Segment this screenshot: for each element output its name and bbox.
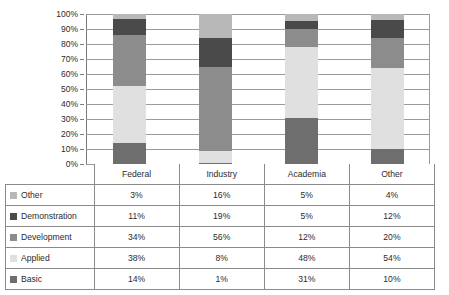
- bar-segment-demonstration: [199, 38, 232, 67]
- table-cell: 14%: [94, 269, 179, 290]
- table-row: Applied38%8%48%54%: [6, 248, 435, 269]
- bar-segment-development: [371, 38, 404, 68]
- y-axis-tick-mark: [80, 89, 84, 90]
- table-cell: 48%: [264, 248, 349, 269]
- bar-segment-development: [113, 35, 146, 86]
- table-cell: 16%: [179, 185, 264, 206]
- y-axis-tick-label: 20%: [61, 130, 78, 138]
- bar-segment-applied: [199, 151, 232, 163]
- y-axis-tick-mark: [80, 104, 84, 105]
- table-cell: 4%: [349, 185, 434, 206]
- legend-item-label: Applied: [21, 253, 50, 263]
- bar-academia: [285, 14, 318, 164]
- table-cell: 19%: [179, 206, 264, 227]
- legend-item-basic: Basic: [6, 269, 95, 290]
- y-axis-tick-label: 10%: [61, 145, 78, 153]
- bar-other: [371, 14, 404, 164]
- legend-item-demonstration: Demonstration: [6, 206, 95, 227]
- table-cell: 12%: [264, 227, 349, 248]
- bar-segment-basic: [371, 149, 404, 164]
- table-column-header: Industry: [179, 164, 264, 185]
- y-axis-tick-mark: [80, 59, 84, 60]
- table-cell: 31%: [264, 269, 349, 290]
- y-axis-tick-mark: [80, 29, 84, 30]
- y-axis: 100%90%80%70%60%50%40%30%20%10%0%: [40, 14, 84, 164]
- bar-segment-basic: [285, 118, 318, 164]
- data-table: FederalIndustryAcademiaOtherOther3%16%5%…: [5, 164, 435, 290]
- y-axis-tick-mark: [80, 149, 84, 150]
- table-row: Development34%56%12%20%: [6, 227, 435, 248]
- y-axis-tick-label: 40%: [61, 100, 78, 108]
- table-row: Basic14%1%31%10%: [6, 269, 435, 290]
- table-cell: 5%: [264, 206, 349, 227]
- legend-item-label: Other: [21, 190, 43, 200]
- legend-swatch-icon: [10, 234, 17, 241]
- bar-segment-other: [199, 14, 232, 38]
- table-row: Other3%16%5%4%: [6, 185, 435, 206]
- bar-segment-demonstration: [371, 20, 404, 38]
- y-axis-tick-mark: [80, 74, 84, 75]
- legend-item-label: Demonstration: [21, 211, 77, 221]
- y-axis-tick-label: 70%: [61, 55, 78, 63]
- table-cell: 34%: [94, 227, 179, 248]
- bar-segment-other: [285, 14, 318, 21]
- table-cell: 1%: [179, 269, 264, 290]
- bar-segment-demonstration: [113, 19, 146, 36]
- y-axis-tick-label: 100%: [56, 10, 78, 18]
- table-corner-cell: [6, 164, 95, 185]
- plot-area: [86, 14, 430, 164]
- table-cell: 3%: [94, 185, 179, 206]
- y-axis-tick-label: 90%: [61, 25, 78, 33]
- bar-segment-demonstration: [285, 21, 318, 28]
- y-axis-tick-label: 30%: [61, 115, 78, 123]
- y-axis-tick-mark: [80, 14, 84, 15]
- legend-item-label: Development: [21, 232, 72, 242]
- y-axis-tick-label: 50%: [61, 85, 78, 93]
- bar-segment-applied: [285, 47, 318, 118]
- bar-segment-development: [285, 29, 318, 47]
- table-cell: 56%: [179, 227, 264, 248]
- table-cell: 8%: [179, 248, 264, 269]
- legend-item-label: Basic: [21, 274, 42, 284]
- table-body: FederalIndustryAcademiaOtherOther3%16%5%…: [6, 164, 435, 290]
- legend-swatch-icon: [10, 276, 17, 283]
- legend-swatch-icon: [10, 255, 17, 262]
- table-header-row: FederalIndustryAcademiaOther: [6, 164, 435, 185]
- table-cell: 54%: [349, 248, 434, 269]
- y-axis-tick-label: 60%: [61, 70, 78, 78]
- table-column-header: Federal: [94, 164, 179, 185]
- y-axis-tick-mark: [80, 134, 84, 135]
- table-cell: 20%: [349, 227, 434, 248]
- chart-figure: 100%90%80%70%60%50%40%30%20%10%0% Federa…: [0, 0, 449, 295]
- table-row: Demonstration11%19%5%12%: [6, 206, 435, 227]
- table-column-header: Other: [349, 164, 434, 185]
- table-cell: 10%: [349, 269, 434, 290]
- y-axis-tick-label: 80%: [61, 40, 78, 48]
- table-cell: 12%: [349, 206, 434, 227]
- bar-segment-applied: [113, 86, 146, 143]
- legend-item-development: Development: [6, 227, 95, 248]
- table-cell: 38%: [94, 248, 179, 269]
- table-cell: 11%: [94, 206, 179, 227]
- y-axis-tick-mark: [80, 44, 84, 45]
- legend-swatch-icon: [10, 192, 17, 199]
- table-column-header: Academia: [264, 164, 349, 185]
- legend-item-applied: Applied: [6, 248, 95, 269]
- legend-swatch-icon: [10, 213, 17, 220]
- bar-industry: [199, 14, 232, 164]
- legend-item-other: Other: [6, 185, 95, 206]
- table-cell: 5%: [264, 185, 349, 206]
- y-axis-tick-mark: [80, 119, 84, 120]
- bar-segment-basic: [113, 143, 146, 164]
- bar-federal: [113, 14, 146, 164]
- bar-segment-applied: [371, 68, 404, 149]
- bar-segment-development: [199, 67, 232, 151]
